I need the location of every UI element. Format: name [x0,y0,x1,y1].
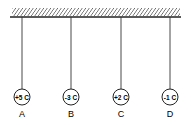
charge-c: +2 C [114,94,128,101]
ceiling-hatch [12,8,180,16]
sphere-c: +2 C C [113,17,129,119]
label-c: C [118,109,125,119]
charge-a: +5 C [15,94,29,101]
label-b: B [68,109,74,119]
charge-d: -1 C [164,94,177,101]
label-d: D [167,109,174,119]
ceiling [10,8,181,17]
charge-b: -3 C [65,94,78,101]
sphere-a: +5 C A [14,17,30,119]
label-a: A [19,109,25,119]
sphere-d: -1 C D [162,17,178,119]
diagram-canvas: +5 C A -3 C B +2 C C -1 C D [0,0,191,125]
sphere-b: -3 C B [63,17,79,119]
